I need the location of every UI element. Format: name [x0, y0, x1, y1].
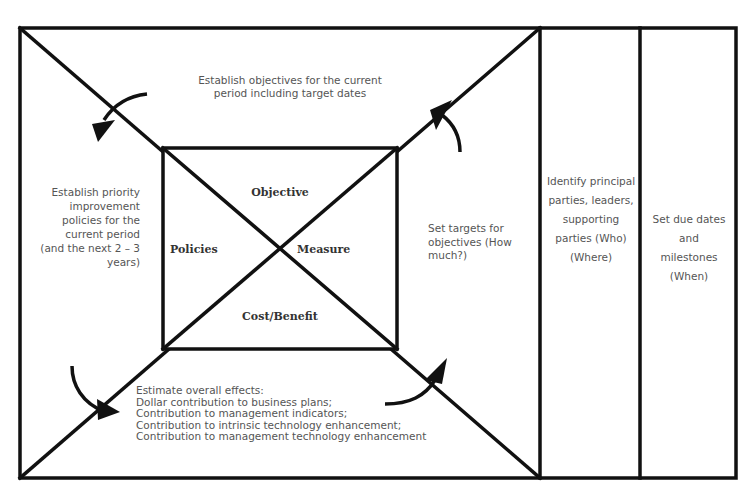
column-who-where: Identify principal parties, leaders, sup… — [545, 172, 637, 267]
arrowhead-bottom-right — [425, 358, 447, 384]
top-text: Establish objectives for the current per… — [185, 74, 395, 100]
arrowhead-top-right — [430, 100, 452, 130]
bottom-text-title: Estimate overall effects: — [136, 385, 476, 397]
arrow-top-right — [442, 115, 460, 152]
column-when: Set due dates and milestones (When) — [650, 210, 728, 286]
left-text: Establish priority improvement policies … — [40, 185, 140, 269]
bottom-text: Estimate overall effects: Dollar contrib… — [136, 385, 476, 443]
right-text: Set targets for objectives (How much?) — [428, 222, 513, 263]
inner-label-cost-benefit: Cost/Benefit — [210, 310, 350, 323]
inner-label-policies: Policies — [170, 243, 250, 256]
bottom-text-line-2: Contribution to management indicators; — [136, 408, 476, 420]
bottom-text-line-4: Contribution to management technology en… — [136, 431, 476, 443]
arrowhead-top-left — [92, 120, 115, 142]
inner-label-measure: Measure — [297, 243, 377, 256]
inner-label-objective: Objective — [220, 186, 340, 199]
